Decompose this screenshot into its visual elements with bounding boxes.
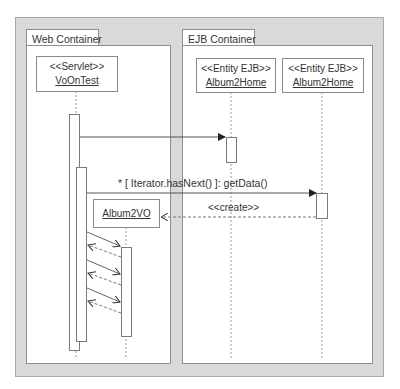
home1-name: Album2Home (197, 76, 275, 90)
vo-name: Album2VO (94, 207, 159, 221)
activation-home1 (226, 137, 237, 163)
servlet-name: VoOnTest (37, 74, 117, 88)
message-create-label: <<create>> (208, 202, 259, 213)
activation-album2vo (121, 247, 132, 337)
message-getdata-label: * [ Iterator.hasNext() ]: getData() (118, 177, 267, 189)
lifeline-servlet-voontest: <<Servlet>> VoOnTest (36, 56, 118, 92)
home1-stereotype: <<Entity EJB>> (197, 62, 275, 76)
activation-servlet-inner (76, 167, 87, 342)
activation-home2 (316, 193, 328, 219)
servlet-stereotype: <<Servlet>> (37, 60, 117, 74)
lifeline-album2home-1: <<Entity EJB>> Album2Home (196, 58, 276, 93)
home2-stereotype: <<Entity EJB>> (283, 62, 363, 76)
lifeline-album2home-2: <<Entity EJB>> Album2Home (282, 58, 364, 93)
home2-name: Album2Home (283, 76, 363, 90)
lifeline-album2vo: Album2VO (93, 199, 160, 228)
